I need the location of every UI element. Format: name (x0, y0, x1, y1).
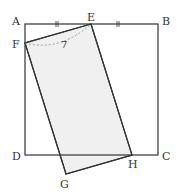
label-e: E (87, 11, 95, 24)
label-c: C (162, 150, 170, 163)
label-a: A (11, 15, 21, 28)
arc-length-label: 7 (61, 39, 67, 50)
geometry-diagram: A B C D E F G H 7 (0, 0, 178, 194)
label-g: G (60, 178, 69, 191)
label-b: B (162, 15, 170, 28)
rectangle-efgh (25, 24, 132, 174)
label-d: D (12, 150, 21, 163)
label-h: H (128, 158, 138, 171)
label-f: F (12, 38, 20, 51)
